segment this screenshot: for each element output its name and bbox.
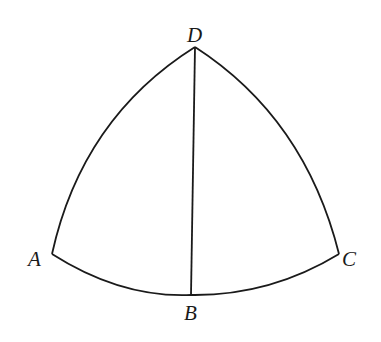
vertex-label-a: A — [26, 247, 41, 271]
segment-DB — [191, 47, 195, 295]
vertex-label-d: D — [186, 23, 202, 47]
spherical-triangle-diagram: D A B C — [0, 0, 381, 342]
vertex-label-c: C — [342, 247, 357, 271]
arc-ABC — [52, 254, 339, 295]
arc-DC — [195, 47, 339, 254]
arc-DA — [52, 47, 195, 254]
vertex-label-b: B — [184, 301, 197, 325]
